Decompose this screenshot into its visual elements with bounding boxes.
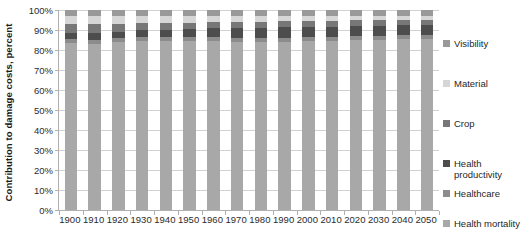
bar-2030[interactable] bbox=[373, 10, 385, 210]
bar-1930[interactable] bbox=[136, 10, 148, 210]
bar-segment bbox=[183, 16, 195, 23]
legend-item-label: Crop bbox=[454, 118, 475, 129]
legend-item-label: Healthcare bbox=[454, 188, 500, 199]
bar-segment bbox=[136, 23, 148, 30]
x-axis-tick-label: 1960 bbox=[202, 214, 223, 225]
bar-segment bbox=[421, 25, 433, 35]
bar-segment bbox=[207, 28, 219, 37]
y-axis-tickmark bbox=[55, 10, 59, 11]
y-axis-tick-label: 90% bbox=[13, 25, 53, 36]
x-axis-tick-label: 2010 bbox=[321, 214, 342, 225]
legend-item[interactable]: Material bbox=[443, 78, 529, 89]
bar-segment bbox=[397, 25, 409, 35]
bar-1940[interactable] bbox=[160, 10, 172, 210]
y-axis-tickmark bbox=[55, 50, 59, 51]
legend-item[interactable]: Health mortality bbox=[443, 218, 529, 229]
bar-1980[interactable] bbox=[255, 10, 267, 210]
bar-2040[interactable] bbox=[397, 10, 409, 210]
bar-segment bbox=[160, 23, 172, 30]
bar-segment bbox=[160, 16, 172, 23]
legend-swatch-icon bbox=[443, 80, 450, 87]
bar-segment bbox=[136, 41, 148, 210]
bar-segment bbox=[231, 28, 243, 38]
y-axis-tickmark bbox=[55, 170, 59, 171]
bar-segment bbox=[136, 16, 148, 23]
legend-swatch-icon bbox=[443, 160, 450, 167]
bar-segment bbox=[88, 44, 100, 210]
y-axis-tick-label: 50% bbox=[13, 105, 53, 116]
bar-segment bbox=[302, 41, 314, 210]
y-axis-tick-label: 30% bbox=[13, 145, 53, 156]
x-axis-tick-label: 2050 bbox=[416, 214, 437, 225]
bar-segment bbox=[112, 24, 124, 32]
bar-segment bbox=[88, 16, 100, 24]
legend-item[interactable]: Visibility bbox=[443, 38, 529, 49]
plot-area bbox=[58, 10, 439, 211]
bar-segment bbox=[326, 41, 338, 210]
x-axis-tick-label: 1980 bbox=[249, 214, 270, 225]
x-axis-tick-label: 1950 bbox=[178, 214, 199, 225]
y-axis-tick-label: 60% bbox=[13, 85, 53, 96]
bar-segment bbox=[278, 27, 290, 38]
bar-segment bbox=[278, 42, 290, 210]
bar-segment bbox=[88, 33, 100, 40]
bar-segment bbox=[350, 40, 362, 210]
bar-1950[interactable] bbox=[183, 10, 195, 210]
bar-segment bbox=[88, 24, 100, 33]
bar-segment bbox=[65, 43, 77, 210]
bar-1960[interactable] bbox=[207, 10, 219, 210]
bar-segment bbox=[112, 42, 124, 210]
bar-2020[interactable] bbox=[350, 10, 362, 210]
bar-segment bbox=[160, 30, 172, 37]
x-axis-tick-label: 1920 bbox=[107, 214, 128, 225]
bar-segment bbox=[112, 16, 124, 24]
bar-2010[interactable] bbox=[326, 10, 338, 210]
legend-item[interactable]: Health productivity bbox=[443, 158, 529, 180]
legend-swatch-icon bbox=[443, 190, 450, 197]
bar-1920[interactable] bbox=[112, 10, 124, 210]
y-axis-tick-label: 100% bbox=[13, 5, 53, 16]
x-axis-tick-label: 2040 bbox=[392, 214, 413, 225]
x-axis-tick-label: 1990 bbox=[273, 214, 294, 225]
bar-1990[interactable] bbox=[278, 10, 290, 210]
y-axis-tick-label: 70% bbox=[13, 65, 53, 76]
bar-segment bbox=[373, 40, 385, 210]
bar-1900[interactable] bbox=[65, 10, 77, 210]
bar-2050[interactable] bbox=[421, 10, 433, 210]
x-axis-tick-label: 1970 bbox=[226, 214, 247, 225]
bar-segment bbox=[183, 29, 195, 37]
x-axis-tick-label: 1900 bbox=[59, 214, 80, 225]
bar-segment bbox=[421, 39, 433, 210]
y-axis-tickmark bbox=[55, 150, 59, 151]
y-axis-tickmark bbox=[55, 70, 59, 71]
legend-item[interactable]: Healthcare bbox=[443, 188, 529, 199]
bar-segment bbox=[183, 41, 195, 210]
legend-item[interactable]: Crop bbox=[443, 118, 529, 129]
legend-item-label: Material bbox=[454, 78, 488, 89]
y-axis-tickmark bbox=[55, 110, 59, 111]
legend-item-label: Visibility bbox=[454, 38, 488, 49]
bar-segment bbox=[65, 24, 77, 33]
bar-segment bbox=[207, 41, 219, 210]
legend-item-label: Health productivity bbox=[454, 158, 502, 180]
y-axis-tick-label: 20% bbox=[13, 165, 53, 176]
x-axis-tick-label: 1910 bbox=[83, 214, 104, 225]
y-axis-tickmark bbox=[55, 30, 59, 31]
bar-segment bbox=[326, 27, 338, 37]
bar-2000[interactable] bbox=[302, 10, 314, 210]
bar-1910[interactable] bbox=[88, 10, 100, 210]
y-axis-tickmark bbox=[55, 90, 59, 91]
legend-item-label: Health mortality bbox=[454, 218, 520, 229]
legend-swatch-icon bbox=[443, 220, 450, 227]
bar-segment bbox=[397, 39, 409, 210]
stacked-bar-chart: Contribution to damage costs, percent 0%… bbox=[0, 0, 529, 251]
x-axis-tick-label: 1930 bbox=[131, 214, 152, 225]
bar-segment bbox=[255, 28, 267, 38]
y-axis-tickmark bbox=[55, 130, 59, 131]
y-axis-tickmark bbox=[55, 190, 59, 191]
bar-1970[interactable] bbox=[231, 10, 243, 210]
bar-segment bbox=[255, 42, 267, 210]
bars-layer bbox=[59, 10, 439, 210]
bar-segment bbox=[160, 41, 172, 210]
bar-segment bbox=[231, 42, 243, 210]
